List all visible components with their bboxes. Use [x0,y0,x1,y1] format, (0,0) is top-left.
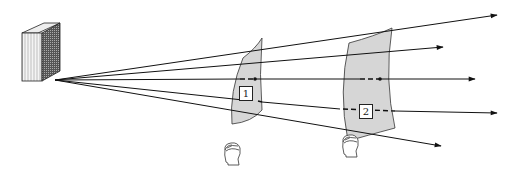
ray-lower-c [395,111,497,113]
observer-1-head-icon [225,143,241,165]
surface-2-center-dot [378,77,382,81]
diagram-svg [0,0,515,180]
ray-lower-a [55,80,243,100]
observer-2-head-icon [343,135,359,157]
surface-1-center-dot [253,77,257,81]
ray-top [55,15,497,80]
surface-1-label: 1 [239,86,253,101]
diagram-canvas: 1 2 [0,0,515,180]
surface-2-label: 2 [359,104,373,119]
ray-lower-b [262,102,340,109]
surface-2 [343,28,395,141]
rays [55,15,497,146]
light-source-icon [22,23,60,81]
ray-center-a [55,79,240,80]
